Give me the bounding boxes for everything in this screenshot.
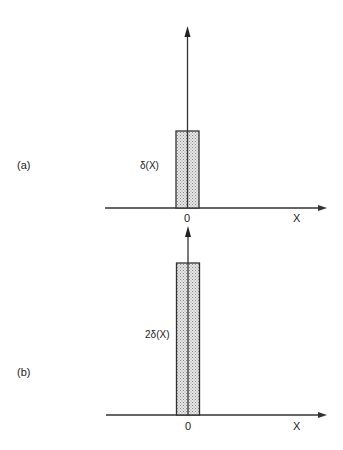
panel-a-label: (a) — [17, 159, 30, 171]
delta-function-diagram: (a) δ(X) 0 X (b) 2δ(X) 0 X — [0, 0, 343, 450]
panel-a: (a) δ(X) 0 X — [17, 26, 327, 224]
panel-b-label: (b) — [17, 366, 30, 378]
function-label-b: 2δ(X) — [145, 329, 169, 340]
origin-label-a: 0 — [184, 212, 190, 224]
x-axis-arrow-icon — [318, 205, 327, 211]
x-axis-arrow-icon — [318, 412, 327, 418]
y-axis-arrow-icon — [185, 26, 191, 37]
x-axis-label-b: X — [293, 420, 301, 432]
x-axis-label-a: X — [293, 212, 301, 224]
y-axis-arrow-icon — [185, 226, 191, 237]
function-label-a: δ(X) — [140, 160, 159, 171]
panel-b: (b) 2δ(X) 0 X — [17, 226, 327, 432]
origin-label-b: 0 — [185, 420, 191, 432]
